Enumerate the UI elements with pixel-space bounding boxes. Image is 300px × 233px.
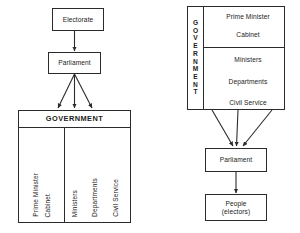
government-letter: V — [193, 35, 198, 42]
government-vertical-letters: G O V E R N M E N T — [188, 7, 204, 109]
parliament-label-left: Parliament — [58, 59, 91, 67]
people-label-line2: (electors) — [222, 208, 250, 216]
electorate-label: Electorate — [63, 16, 94, 24]
vertical-label-departments: Departments — [91, 178, 98, 217]
item-departments: Departments — [212, 79, 284, 86]
arrow-government-to-parliament-right — [243, 110, 272, 146]
government-letter: M — [193, 66, 199, 73]
item-civil-service: Civil Service — [212, 100, 284, 107]
government-box-right: G O V E R N M E N T Prime Minister Cabin… — [187, 6, 285, 110]
vertical-label-civil-service: Civil Service — [112, 179, 119, 217]
government-letter: N — [193, 59, 198, 66]
people-box-right: People (electors) — [205, 194, 267, 221]
arrow-parliament-to-government-left — [58, 74, 75, 108]
parliament-box-left: Parliament — [48, 52, 101, 74]
parliament-label-right: Parliament — [220, 156, 253, 164]
government-lower-section: Ministers Departments Civil Service — [203, 48, 284, 109]
diagram-canvas: Electorate Parliament GOVERNMENT Prime M… — [0, 0, 300, 233]
parliament-box-right: Parliament — [205, 148, 267, 172]
government-letter: O — [193, 28, 198, 35]
government-letter: R — [193, 51, 198, 58]
government-administration-column: Ministers Departments Civil Service — [65, 127, 130, 222]
vertical-label-ministers: Ministers — [71, 190, 78, 217]
arrow-government-to-parliament-left — [212, 110, 233, 146]
government-letter: E — [193, 74, 198, 81]
government-letter: N — [193, 82, 198, 89]
vertical-label-prime-minister: Prime Minister — [32, 173, 39, 217]
item-ministers: Ministers — [212, 57, 284, 64]
government-letter: T — [193, 89, 197, 96]
government-letter: E — [193, 43, 198, 50]
government-right-body: Prime Minister Cabinet Ministers Departm… — [203, 7, 284, 109]
government-body-left: Prime Minister Cabinet Ministers Departm… — [19, 127, 130, 222]
electorate-box: Electorate — [52, 8, 104, 31]
government-letter: G — [193, 20, 198, 27]
government-header-left: GOVERNMENT — [19, 111, 130, 128]
item-cabinet: Cabinet — [212, 32, 284, 39]
government-upper-section: Prime Minister Cabinet — [203, 7, 284, 48]
item-prime-minister: Prime Minister — [212, 14, 284, 21]
government-box-left: GOVERNMENT Prime Minister Cabinet Minist… — [18, 110, 131, 223]
vertical-label-cabinet: Cabinet — [44, 194, 51, 217]
government-executive-column: Prime Minister Cabinet — [19, 127, 65, 222]
arrow-government-to-parliament-center — [237, 110, 239, 146]
people-label-line1: People — [225, 200, 246, 208]
arrow-parliament-to-government-right — [75, 74, 93, 108]
